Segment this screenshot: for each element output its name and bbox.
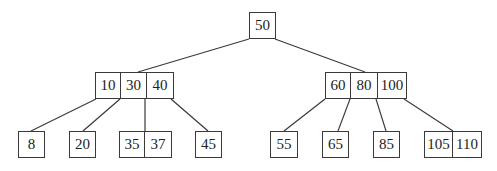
- tree-node-leaf7: 85: [373, 131, 400, 158]
- tree-node-leaf4: 45: [195, 131, 222, 158]
- tree-node-leaf6: 65: [322, 131, 349, 158]
- edge-right-to-leaf7: [376, 99, 386, 131]
- edge-right-to-leaf5: [284, 99, 325, 131]
- node-key: 110: [452, 131, 482, 158]
- node-key: 37: [144, 131, 172, 158]
- tree-node-leaf8: 105110: [424, 131, 482, 158]
- tree-node-left: 103040: [95, 72, 174, 99]
- edge-left-to-leaf1: [31, 99, 96, 131]
- node-key: 100: [377, 72, 407, 99]
- tree-node-root: 50: [249, 12, 276, 39]
- node-key: 10: [95, 72, 121, 99]
- node-key: 30: [120, 72, 147, 99]
- node-key: 80: [350, 72, 378, 99]
- edge-right-to-leaf8: [404, 99, 453, 131]
- tree-node-leaf1: 8: [18, 131, 45, 158]
- edge-left-to-leaf2: [83, 99, 120, 131]
- tree-node-right: 6080100: [325, 72, 407, 99]
- node-key: 40: [146, 72, 174, 99]
- tree-node-leaf5: 55: [270, 131, 298, 158]
- tree-node-leaf3: 3537: [119, 131, 172, 158]
- node-key: 20: [69, 131, 96, 158]
- node-key: 35: [119, 131, 145, 158]
- node-key: 8: [18, 131, 45, 158]
- node-key: 55: [270, 131, 298, 158]
- node-key: 50: [249, 12, 276, 39]
- tree-node-leaf2: 20: [69, 131, 96, 158]
- edge-left-to-leaf4: [171, 99, 208, 131]
- node-key: 105: [424, 131, 453, 158]
- node-key: 85: [373, 131, 400, 158]
- node-key: 65: [322, 131, 349, 158]
- edge-root-to-left: [138, 39, 249, 72]
- node-key: 60: [325, 72, 351, 99]
- b-tree-diagram: 501030406080100820353745556585105110: [0, 0, 497, 171]
- edge-root-to-right: [275, 39, 365, 72]
- node-key: 45: [195, 131, 222, 158]
- edge-right-to-leaf6: [338, 99, 350, 131]
